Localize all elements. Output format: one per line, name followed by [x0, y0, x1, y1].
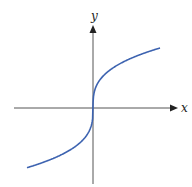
y-axis-arrow-icon — [90, 25, 97, 33]
y-axis-label: y — [90, 9, 98, 23]
x-axis-label: x — [181, 101, 188, 115]
x-axis: x — [14, 101, 188, 115]
function-plot: x y — [0, 0, 192, 187]
x-axis-arrow-icon — [170, 105, 178, 112]
